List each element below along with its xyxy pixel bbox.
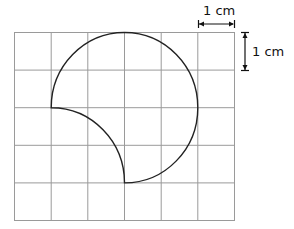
vertical-scale-label: 1 cm [252,44,284,59]
vertical-scale-arrow [241,33,249,71]
horizontal-scale-label: 1 cm [203,3,235,18]
horizontal-scale-arrow [199,20,235,28]
grid [15,33,235,221]
grid-diagram [0,0,294,229]
